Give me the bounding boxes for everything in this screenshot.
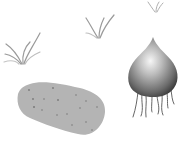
- scene-illustration: [0, 0, 184, 155]
- grass-tuft-middle-icon: [86, 15, 114, 38]
- grass-tuft-left-icon: [4, 33, 40, 64]
- grass-tuft-right-icon: [148, 2, 163, 12]
- potato-icon: [18, 82, 106, 135]
- bulb-icon: [128, 37, 177, 117]
